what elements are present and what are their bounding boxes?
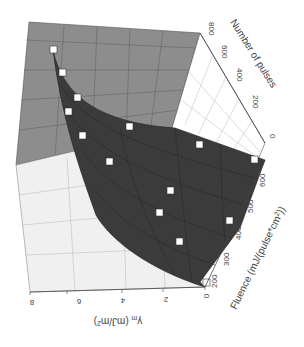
data-point: [196, 141, 203, 148]
data-point: [203, 279, 210, 286]
fluence-tick-label: 600: [258, 173, 267, 187]
data-point: [65, 108, 72, 115]
z-tick-label: 0: [202, 293, 211, 298]
z-tick-labels: 8 6 4 2 0: [29, 293, 211, 307]
data-point: [176, 238, 183, 245]
fluence-tick-label: 300: [222, 252, 231, 266]
fluence-tick-label: 400: [234, 226, 243, 240]
z-tick-label: 2: [163, 295, 168, 304]
z-tick-label: 6: [76, 297, 81, 306]
fluence-tick-label: 500: [246, 199, 255, 213]
data-point: [251, 156, 258, 163]
data-point: [156, 209, 163, 216]
pulses-tick-label: 200: [251, 95, 260, 109]
data-point: [167, 187, 174, 194]
data-point: [106, 158, 113, 165]
fluence-tick-label: 200: [210, 274, 219, 288]
data-point: [126, 123, 133, 130]
z-axis-label: γm (mJ/m2): [94, 315, 143, 327]
z-tick-label: 4: [120, 296, 125, 305]
pulses-tick-label: 800: [207, 22, 216, 36]
data-point: [79, 132, 86, 139]
pulses-tick-label: 600: [220, 45, 229, 59]
data-point: [226, 217, 233, 224]
data-point: [59, 69, 66, 76]
z-tick-label: 8: [29, 298, 34, 307]
data-point: [74, 94, 81, 101]
surface-chart: 8 6 4 2 0 γm (mJ/m2) 200 300 400 500 600…: [0, 0, 304, 347]
pulses-tick-label: 0: [268, 134, 277, 139]
pulses-tick-label: 400: [235, 68, 244, 82]
data-point: [50, 46, 57, 53]
